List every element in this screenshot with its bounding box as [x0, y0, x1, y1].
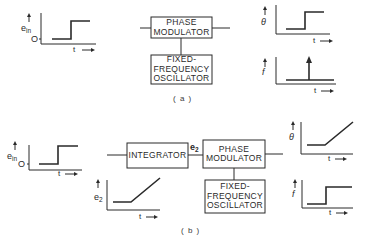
b-e2-xlabel: t: [139, 212, 141, 222]
b-input-origin: O: [18, 159, 25, 169]
caption-b: ( b ): [181, 226, 200, 235]
b-input-ylabel: ein: [7, 151, 17, 164]
b-theta-xlabel: t: [328, 154, 330, 164]
plot-b-e2: [96, 178, 160, 219]
b-e2-signal-label: e2: [190, 142, 199, 155]
plot-b-freq: [293, 179, 353, 215]
a-input-ylabel: ein: [21, 23, 31, 36]
b-theta-ylabel: θ: [289, 132, 294, 142]
a-theta-ylabel: θ: [261, 17, 266, 27]
plot-b-theta: [291, 121, 353, 161]
caption-a: ( a ): [173, 94, 192, 103]
a-input-xlabel: t: [73, 45, 75, 55]
b-integrator-label: INTEGRATOR: [127, 143, 188, 168]
a-oscillator-label: FIXED- FREQUENCY OSCILLATOR: [151, 55, 212, 84]
a-theta-xlabel: t: [313, 36, 315, 46]
b-freq-xlabel: t: [329, 208, 331, 218]
a-freq-ylabel: f: [262, 67, 265, 77]
b-freq-ylabel: f: [292, 189, 295, 199]
b-input-xlabel: t: [58, 169, 60, 179]
plot-a-theta: [263, 5, 333, 43]
b-e2-ylabel: e2: [94, 192, 103, 205]
a-input-origin: O: [31, 34, 38, 44]
a-phase-modulator-label: PHASE MODULATOR: [151, 17, 212, 38]
b-phase-modulator-label: PHASE MODULATOR: [203, 140, 265, 168]
plot-a-input: [27, 13, 96, 52]
plot-a-freq: [263, 56, 336, 93]
b-oscillator-label: FIXED- FREQUENCY OSCILLATOR: [205, 180, 265, 213]
a-freq-xlabel: t: [314, 86, 316, 96]
